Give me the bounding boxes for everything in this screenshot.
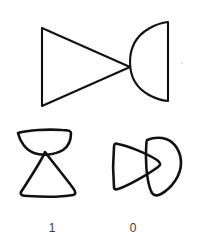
option-one-label: 1 [49,221,56,235]
option-zero-label: 0 [130,221,137,235]
figure-root: 1 0 [0,0,198,244]
speck-mark [181,62,183,64]
shape-composition-canvas: 1 0 [0,0,198,244]
